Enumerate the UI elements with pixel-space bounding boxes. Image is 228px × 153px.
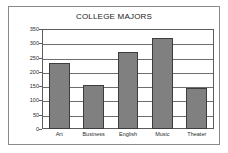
x-axis: ArtBusinessEnglishMusicTheater: [42, 131, 214, 143]
y-axis-tick-label: 150: [30, 83, 39, 89]
x-axis-tick-label-english: English: [119, 131, 137, 137]
chart-title: COLLEGE MAJORS: [9, 12, 219, 21]
x-axis-tick-label-theater: Theater: [187, 131, 206, 137]
y-axis-tick-label: 250: [30, 55, 39, 61]
y-axis: 050100150200250300350: [17, 29, 42, 129]
y-axis-tick-label: 100: [30, 97, 39, 103]
y-axis-tick-label: 200: [30, 69, 39, 75]
chart-frame: COLLEGE MAJORS 050100150200250300350 Art…: [8, 6, 220, 145]
bar-art[interactable]: [49, 63, 70, 129]
x-axis-tick-label-business: Business: [82, 131, 104, 137]
y-axis-tick-label: 350: [30, 26, 39, 32]
bar-music[interactable]: [152, 38, 173, 129]
y-axis-tick-mark: [39, 129, 42, 130]
bars-layer: [42, 29, 214, 129]
x-axis-tick-label-art: Art: [56, 131, 63, 137]
bar-english[interactable]: [118, 52, 139, 129]
x-axis-tick-label-music: Music: [155, 131, 169, 137]
y-axis-tick-label: 300: [30, 40, 39, 46]
bar-business[interactable]: [83, 85, 104, 129]
bar-theater[interactable]: [186, 88, 207, 129]
